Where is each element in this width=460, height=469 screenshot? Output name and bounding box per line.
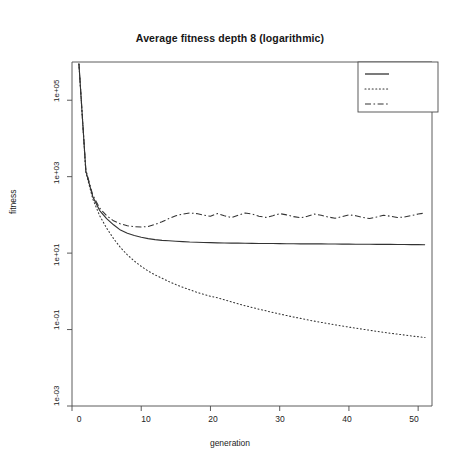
- legend-frame: [358, 62, 438, 112]
- axes-group: [67, 62, 432, 411]
- plot-canvas: [0, 0, 460, 469]
- chart-figure: Average fitness depth 8 (logarithmic) ge…: [0, 0, 460, 469]
